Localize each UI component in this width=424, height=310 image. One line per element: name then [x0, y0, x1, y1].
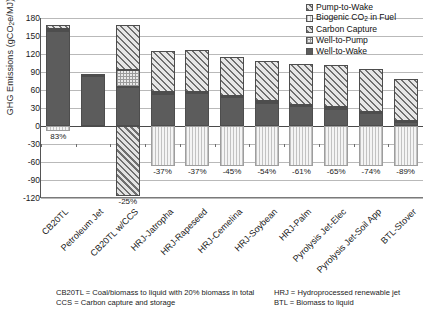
bar-segment-well-to-pump[interactable] — [359, 112, 383, 114]
x-axis-tick-mark — [249, 144, 250, 147]
legend-swatch-hatch-diagonal-icon — [306, 4, 313, 11]
chart-figure: GHG Emissions (gCO2e/MJ) 180150120906030… — [0, 0, 424, 310]
gridline — [41, 198, 423, 199]
legend-item[interactable]: Carbon Capture — [306, 24, 424, 34]
bar-segment-pump-to-wake[interactable] — [185, 50, 209, 91]
legend-item[interactable]: Well-to-Wake — [306, 46, 424, 56]
bar-segment-biogenic-co2[interactable] — [185, 126, 209, 166]
bar-segment-biogenic-co2[interactable] — [255, 126, 279, 166]
y-axis-tick: -90 — [14, 176, 40, 184]
bar-percent-label: 83% — [36, 133, 80, 141]
bar-group[interactable] — [46, 18, 70, 198]
bar-segment-biogenic-co2[interactable] — [324, 126, 348, 166]
bar-segment-well-to-wake[interactable] — [46, 31, 70, 126]
bar-segment-pump-to-wake[interactable] — [394, 79, 418, 121]
bar-segment-well-to-pump[interactable] — [324, 107, 348, 109]
x-axis-tick-mark — [110, 144, 111, 147]
legend-label: Biogenic CO2 in Fuel — [316, 12, 396, 24]
bar-segment-biogenic-co2[interactable] — [359, 126, 383, 166]
y-axis-tick: 90 — [14, 68, 40, 76]
x-axis-tick-mark — [388, 144, 389, 147]
legend-label: Carbon Capture — [316, 24, 377, 34]
bar-segment-pump-to-wake[interactable] — [81, 74, 105, 76]
bar-segment-biogenic-co2[interactable] — [151, 126, 175, 166]
bar-group[interactable] — [116, 18, 140, 198]
y-axis-tick: 150 — [14, 32, 40, 40]
legend-item[interactable]: Biogenic CO2 in Fuel — [306, 13, 424, 23]
legend-swatch-checker-icon — [306, 37, 313, 44]
bar-segment-carbon-capture[interactable] — [116, 126, 140, 196]
legend-swatch-vertical-stripes-icon — [306, 15, 313, 22]
bar-segment-well-to-pump[interactable] — [46, 29, 70, 31]
x-axis-tick-mark — [41, 144, 42, 147]
bar-segment-biogenic-co2[interactable] — [289, 126, 313, 166]
bar-segment-well-to-wake[interactable] — [151, 94, 175, 126]
bar-segment-pump-to-wake[interactable] — [359, 69, 383, 112]
legend-label: Well-to-Pump — [316, 35, 368, 45]
x-axis-tick-mark — [354, 144, 355, 147]
legend-label: Well-to-Wake — [316, 46, 367, 56]
bar-segment-well-to-pump[interactable] — [116, 70, 140, 87]
x-axis-label: BTL-Stover — [345, 207, 418, 280]
bar-segment-pump-to-wake[interactable] — [151, 51, 175, 92]
x-axis-tick-mark — [145, 144, 146, 147]
bar-segment-biogenic-co2[interactable] — [46, 126, 70, 131]
legend-swatch-solid-dark-icon — [306, 48, 313, 55]
bar-segment-well-to-pump[interactable] — [185, 92, 209, 94]
bar-segment-well-to-wake[interactable] — [255, 103, 279, 126]
bar-segment-well-to-pump[interactable] — [289, 105, 313, 107]
bar-segment-well-to-wake[interactable] — [289, 106, 313, 126]
bar-segment-pump-to-wake[interactable] — [289, 64, 313, 105]
bar-percent-label: -25% — [106, 198, 150, 206]
legend-item[interactable]: Pump-to-Wake — [306, 2, 424, 12]
bar-segment-pump-to-wake[interactable] — [116, 25, 140, 70]
bar-segment-well-to-wake[interactable] — [220, 97, 244, 126]
footnote-ccs: CCS = Carbon capture and storage — [56, 298, 266, 308]
x-axis-tick-mark — [215, 144, 216, 147]
x-axis-tick-mark — [180, 144, 181, 147]
bar-segment-pump-to-wake[interactable] — [46, 25, 70, 29]
bar-segment-well-to-wake[interactable] — [324, 109, 348, 126]
bar-segment-pump-to-wake[interactable] — [324, 65, 348, 107]
legend-item[interactable]: Well-to-Pump — [306, 35, 424, 45]
bar-segment-pump-to-wake[interactable] — [220, 57, 244, 96]
legend-label: Pump-to-Wake — [316, 2, 373, 12]
bar-segment-well-to-pump[interactable] — [255, 101, 279, 103]
bar-segment-well-to-wake[interactable] — [81, 76, 105, 126]
bar-segment-well-to-pump[interactable] — [151, 92, 175, 94]
bar-segment-well-to-wake[interactable] — [116, 87, 140, 126]
x-axis-tick-mark — [319, 144, 320, 147]
chart-legend: Pump-to-WakeBiogenic CO2 in FuelCarbon C… — [306, 2, 424, 57]
y-axis-tick: -60 — [14, 158, 40, 166]
x-axis-label: Pyrolysis Jet-Soil App — [310, 207, 383, 280]
bar-segment-well-to-wake[interactable] — [185, 93, 209, 126]
y-axis-tick: -120 — [14, 194, 40, 202]
bar-segment-well-to-pump[interactable] — [220, 96, 244, 98]
footnotes: CB20TL = Coal/biomass to liquid with 20%… — [56, 288, 424, 310]
footnote-hrj: HRJ = Hydroprocessed renewable jet — [274, 288, 424, 298]
footnote-btl: BTL = Biomass to liquid — [274, 298, 424, 308]
y-axis-tick-labels: 1801501209060300-30-60-90-120 — [14, 10, 40, 206]
bar-segment-well-to-pump[interactable] — [394, 121, 418, 123]
x-axis-tick-mark — [76, 144, 77, 147]
footnote-cb20tl: CB20TL = Coal/biomass to liquid with 20%… — [56, 288, 266, 298]
y-axis-tick: 120 — [14, 50, 40, 58]
y-axis-tick: 180 — [14, 14, 40, 22]
y-axis-tick: 30 — [14, 104, 40, 112]
bar-segment-well-to-wake[interactable] — [359, 113, 383, 126]
bar-group[interactable] — [81, 18, 105, 198]
bar-segment-biogenic-co2[interactable] — [394, 126, 418, 166]
footnote-column-left: CB20TL = Coal/biomass to liquid with 20%… — [56, 288, 266, 310]
x-axis-tick-mark — [284, 144, 285, 147]
x-axis-label: HRJ-Soybean — [206, 207, 279, 280]
legend-swatch-hatch-dense-icon — [306, 26, 313, 33]
y-axis-tick: 0 — [14, 122, 40, 130]
footnote-column-right: HRJ = Hydroprocessed renewable jet BTL =… — [274, 288, 424, 310]
bar-percent-label: -89% — [384, 168, 424, 176]
bar-segment-biogenic-co2[interactable] — [220, 126, 244, 166]
bar-segment-pump-to-wake[interactable] — [255, 61, 279, 102]
y-axis-tick: 60 — [14, 86, 40, 94]
